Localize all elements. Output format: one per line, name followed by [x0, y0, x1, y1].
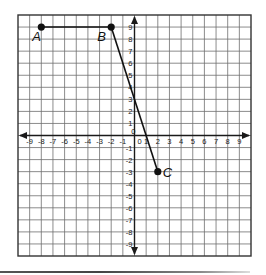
y-tick-label: -4: [126, 180, 133, 189]
x-tick-label: -2: [108, 137, 115, 146]
point-b: [108, 23, 115, 30]
x-tick-label: 9: [237, 137, 241, 146]
x-tick-label: -4: [85, 137, 92, 146]
y-tick-label: -1: [126, 144, 133, 153]
x-tick-label: -7: [50, 137, 57, 146]
x-tick-label: -8: [38, 137, 45, 146]
y-tick-label: -5: [126, 192, 133, 201]
x-tick-label: 7: [214, 137, 218, 146]
y-tick-label: -8: [126, 228, 133, 237]
point-label-b: B: [97, 29, 106, 44]
y-tick-label: 1: [128, 119, 132, 128]
y-tick-label: -9: [126, 240, 133, 249]
y-tick-label: 7: [128, 47, 132, 56]
y-tick-label: -2: [126, 156, 133, 165]
y-tick-label: 9: [128, 23, 132, 32]
x-tick-label: 8: [226, 137, 230, 146]
origin-label-x: 0: [138, 137, 142, 146]
x-axis-right-arrow-icon: [242, 132, 250, 139]
axes: [19, 16, 250, 255]
y-tick-label: -6: [126, 204, 133, 213]
y-tick-label: 5: [128, 71, 132, 80]
point-label-c: C: [163, 165, 173, 180]
y-tick-label: -7: [126, 216, 133, 225]
plotted-points: ABC: [31, 23, 173, 179]
y-tick-label: 8: [128, 35, 132, 44]
x-tick-label: -6: [61, 137, 68, 146]
x-tick-label: -3: [96, 137, 103, 146]
point-label-a: A: [31, 29, 41, 44]
x-tick-label: 5: [191, 137, 195, 146]
coordinate-grid: -9-8-7-6-5-4-3-2-112345678900123456789-1…: [0, 0, 266, 275]
y-tick-label: 3: [128, 95, 132, 104]
x-tick-label: -5: [73, 137, 80, 146]
x-tick-label: -9: [26, 137, 33, 146]
y-tick-label: 2: [128, 107, 132, 116]
bottom-separator: [0, 271, 250, 273]
x-tick-label: 4: [179, 137, 183, 146]
x-tick-label: 6: [202, 137, 206, 146]
y-tick-label: -3: [126, 168, 133, 177]
y-tick-label: 6: [128, 59, 132, 68]
point-c: [154, 168, 161, 175]
x-tick-label: 3: [167, 137, 171, 146]
x-tick-label: 2: [156, 137, 160, 146]
